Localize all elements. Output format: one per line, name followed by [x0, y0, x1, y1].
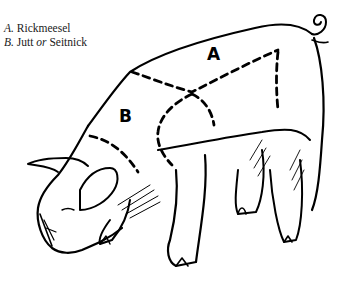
- region-label-a: A: [207, 44, 221, 64]
- region-label-b: B: [119, 106, 132, 126]
- pig-illustration: A B: [0, 0, 356, 282]
